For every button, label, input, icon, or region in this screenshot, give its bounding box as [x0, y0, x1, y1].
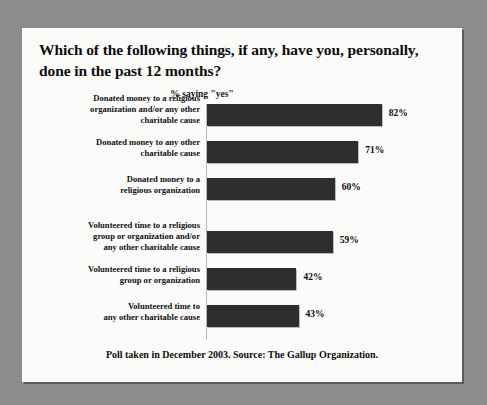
bar-category-label: Donated money to areligious organization [32, 174, 200, 196]
bar [207, 305, 299, 327]
bar-row: Donated money to areligious organization… [22, 178, 462, 200]
bar-category-label: Donated money to a religiousorganization… [32, 93, 200, 126]
bar-track [207, 178, 335, 200]
bar-category-label: Volunteered time to a religiousgroup or … [32, 264, 200, 286]
bar-track [207, 231, 333, 253]
bar-track [207, 268, 296, 290]
bar-value-label: 43% [306, 309, 325, 319]
bar [207, 178, 335, 200]
bar-row: Volunteered time to a religiousgroup or … [22, 268, 462, 290]
bar-value-label: 42% [303, 272, 322, 282]
chart-page: Which of the following things, if any, h… [0, 0, 487, 405]
bar-value-label: 60% [342, 182, 361, 192]
bar-track [207, 104, 382, 126]
bar-category-label: Donated money to any othercharitable cau… [32, 137, 200, 159]
chart-footer-source: Poll taken in December 2003. Source: The… [22, 349, 462, 360]
plot-area: Donated money to a religiousorganization… [22, 104, 462, 344]
bar [207, 231, 333, 253]
bar [207, 141, 358, 163]
bar-track [207, 141, 358, 163]
bar-value-label: 82% [389, 108, 408, 118]
bar [207, 104, 382, 126]
bar-value-label: 71% [365, 145, 384, 155]
bar-row: Donated money to any othercharitable cau… [22, 141, 462, 163]
bar-track [207, 305, 299, 327]
bar-row: Volunteered time to a religiousgroup or … [22, 231, 462, 253]
bar-row: Volunteered time toany other charitable … [22, 305, 462, 327]
chart-title: Which of the following things, if any, h… [39, 40, 439, 81]
bar-row: Donated money to a religiousorganization… [22, 104, 462, 126]
bar-category-label: Volunteered time to a religiousgroup or … [32, 220, 200, 253]
bar-category-label: Volunteered time toany other charitable … [32, 301, 200, 323]
bar [207, 268, 296, 290]
chart-card: Which of the following things, if any, h… [22, 28, 462, 382]
bar-value-label: 59% [340, 235, 359, 245]
